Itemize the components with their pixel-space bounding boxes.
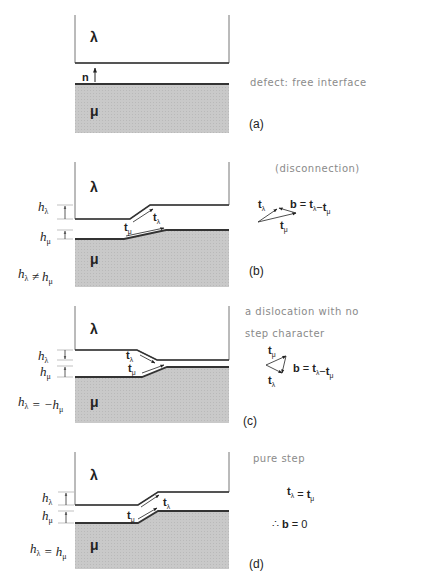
t-lambda-label: tλ <box>163 496 171 510</box>
handwritten-note: a dislocation with no <box>245 306 359 317</box>
side-vector-label: tλ <box>268 374 276 388</box>
panel-c: λμ(c)hλhμhλ = −hμtλtμa dislocation with … <box>18 306 359 428</box>
lambda-outline <box>75 162 229 219</box>
panel-a: λμ(a)ndefect: free interface <box>75 15 367 133</box>
handwritten-note: step character <box>245 328 325 339</box>
step-height-label: hμ <box>40 364 51 381</box>
normal-label: n <box>82 71 89 83</box>
lambda-outline <box>75 306 229 360</box>
mu-label: μ <box>90 394 99 410</box>
step-height-relation: hλ ≠ hμ <box>18 266 53 286</box>
t-mu-label: tμ <box>128 362 136 377</box>
step-height-label: hμ <box>40 229 51 246</box>
panel-d: λμ(d)hλhμhλ = hμtλtμpure steptλ = tμ∴ b … <box>30 452 314 571</box>
lambda-label: λ <box>90 467 98 483</box>
side-vector-arrow-icon <box>266 356 286 365</box>
diagram-canvas: λμ(a)ndefect: free interfaceλμ(b)hλhμhλ … <box>0 0 429 584</box>
mu-label: μ <box>90 103 99 119</box>
burgers-vector-equation: b = tλ−tμ <box>293 362 333 380</box>
lambda-label: λ <box>90 29 98 45</box>
handwritten-note: (disconnection) <box>275 163 360 174</box>
mu-label: μ <box>90 537 99 553</box>
lambda-label: λ <box>90 179 98 195</box>
burgers-vector-equation: ∴ b = 0 <box>272 518 307 530</box>
step-height-label: hμ <box>42 508 53 525</box>
side-vector-arrow-icon <box>266 365 282 373</box>
step-height-label: hλ <box>38 348 49 365</box>
lambda-interface-edge <box>75 205 229 219</box>
lambda-interface-edge <box>75 350 229 360</box>
side-vector-label: tμ <box>280 219 288 234</box>
side-vector-label: tμ <box>268 344 276 359</box>
step-height-relation: hλ = −hμ <box>18 394 63 414</box>
side-vector-arrow-icon <box>282 356 286 373</box>
t-lambda-label: tλ <box>126 349 134 363</box>
lambda-interface-edge <box>75 492 229 505</box>
mu-label: μ <box>90 251 99 267</box>
panel-label: (b) <box>249 264 264 278</box>
handwritten-note: defect: free interface <box>250 77 367 88</box>
side-vector-label: tλ <box>258 198 266 212</box>
step-height-label: hλ <box>38 199 49 216</box>
panel-label: (a) <box>249 117 264 131</box>
lambda-outline <box>75 15 229 63</box>
handwritten-note: pure step <box>253 453 305 464</box>
t-mu-label: tμ <box>124 221 132 236</box>
panel-label: (d) <box>249 557 264 571</box>
lambda-outline <box>75 452 229 505</box>
panels-layer: λμ(a)ndefect: free interfaceλμ(b)hλhμhλ … <box>18 15 367 571</box>
t-mu-label: tμ <box>127 509 135 524</box>
t-lambda-label: tλ <box>153 211 161 225</box>
step-height-relation: hλ = hμ <box>30 541 67 561</box>
lambda-label: λ <box>90 321 98 337</box>
side-vector-arrow-icon <box>258 213 296 222</box>
panel-b: λμ(b)hλhμhλ ≠ hμtλtμ(disconnection)tλtμb… <box>18 162 360 287</box>
burgers-vector-equation: tλ = tμ <box>287 485 314 503</box>
step-height-label: hλ <box>42 490 53 507</box>
panel-label: (c) <box>243 414 257 428</box>
t-lambda-vector-icon <box>140 355 155 363</box>
